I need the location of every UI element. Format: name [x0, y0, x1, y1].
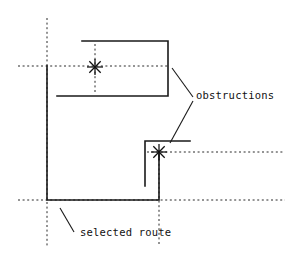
selected-route-group — [47, 66, 159, 200]
guide-lines-group — [18, 18, 285, 246]
obstruction-marker-upper — [87, 59, 103, 75]
leader-obstruction-upper — [172, 68, 193, 97]
obstructions-label: obstructions — [196, 89, 274, 101]
selected-route — [47, 66, 159, 200]
upper-obstruction — [57, 41, 168, 96]
leader-lines-group — [60, 68, 193, 232]
leader-selected-route — [60, 208, 74, 232]
obstructions-group — [57, 41, 190, 186]
diagram-canvas: obstructions selected route — [0, 0, 294, 267]
routing-diagram: obstructions selected route — [0, 0, 294, 267]
selected-route-label: selected route — [80, 226, 171, 238]
obstruction-marker-lower — [151, 144, 167, 160]
lower-obstruction — [145, 141, 190, 186]
leader-obstruction-lower — [170, 101, 193, 143]
